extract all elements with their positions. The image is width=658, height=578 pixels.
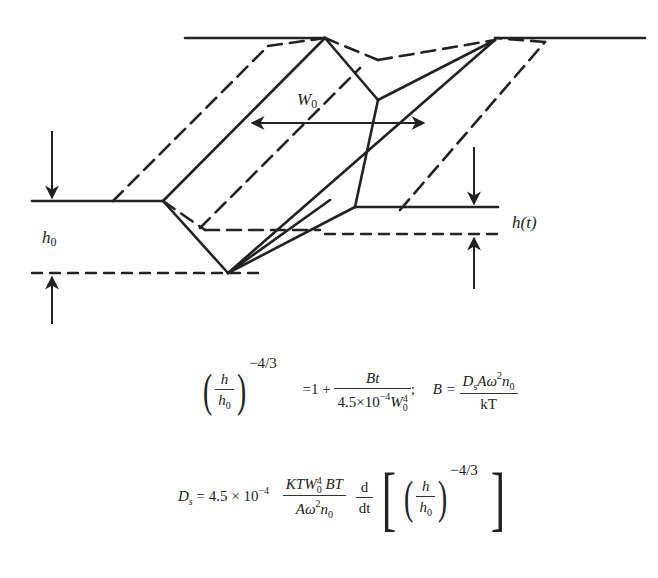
exponent: −4/3: [249, 355, 277, 371]
left-bracket: [: [382, 462, 396, 534]
right-paren: ): [237, 368, 246, 414]
derivative-operator: ddt: [356, 479, 374, 517]
h0-label: h0: [42, 228, 57, 250]
ht-label: h(t): [512, 213, 537, 233]
groove-diagram: [0, 0, 658, 340]
w0-label: W0: [297, 90, 317, 112]
right-bracket: ]: [491, 462, 505, 534]
inner-h-fraction: hh0: [416, 478, 435, 518]
diffusion-fraction: KTW40 BTAω2n0: [283, 476, 346, 521]
solid-surface-lines: [32, 38, 645, 273]
b-definition-fraction: DsAω2n0kT: [460, 370, 518, 413]
left-paren: (: [203, 368, 212, 414]
equation-2: Ds = 4.5 × 10−4 KTW40 BTAω2n0 ddt [(hh0)…: [178, 462, 510, 534]
bt-fraction: Bt4.5×10−4W40: [334, 370, 410, 413]
equation-1: (hh0)−4/3 =1 + Bt4.5×10−4W40; B = DsAω2n…: [200, 368, 518, 414]
h-over-h0-fraction: hh0: [215, 371, 234, 411]
